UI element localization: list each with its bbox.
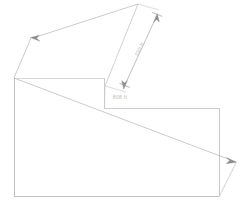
drawing-svg: 250 ft 808 ft bbox=[0, 0, 244, 205]
leader-upper-left-arrowhead bbox=[30, 35, 40, 41]
dim-250-extension-top bbox=[138, 4, 159, 10]
triangle-left-leg bbox=[105, 4, 138, 86]
upper-triangle-lines bbox=[105, 4, 139, 108]
dim-250-extension-bottom bbox=[105, 86, 126, 92]
leader-upper-left-lower-arm bbox=[14, 38, 31, 78]
leader-upper-left-upper-arm bbox=[33, 4, 138, 38]
leader-lower-right-arrowhead bbox=[226, 157, 236, 163]
leader-lower-right-return-arm bbox=[220, 163, 237, 196]
dimension-808ft: 808 ft bbox=[113, 94, 128, 100]
dimension-250ft: 250 ft bbox=[105, 4, 162, 92]
triangle-to-step bbox=[105, 86, 106, 108]
dim-808-label: 808 ft bbox=[113, 94, 128, 100]
dim-250-label: 250 ft bbox=[133, 41, 145, 57]
leader-main-diagonal bbox=[14, 78, 236, 162]
leader-lines bbox=[14, 4, 237, 196]
technical-drawing-canvas: 250 ft 808 ft bbox=[0, 0, 244, 205]
